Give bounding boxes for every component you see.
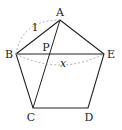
vertex-label-e: E <box>107 48 115 61</box>
side-length-label: 1 <box>32 21 39 34</box>
vertex-label-a: A <box>55 6 65 19</box>
diagonal-length-label: x <box>60 57 67 70</box>
vertex-label-d: D <box>85 111 94 124</box>
vertex-label-b: B <box>5 48 13 61</box>
pentagon-diagram: A B C D E P 1 x <box>0 0 122 130</box>
vertex-label-c: C <box>27 111 35 124</box>
intersection-label-p: P <box>42 41 50 54</box>
